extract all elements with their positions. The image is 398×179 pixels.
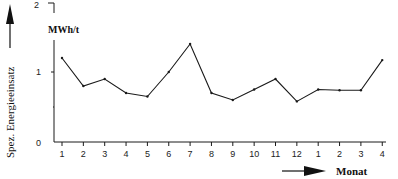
xtick-label: 12 [292, 149, 302, 159]
data-point [61, 57, 63, 59]
data-point [274, 78, 276, 80]
data-point [168, 71, 170, 73]
line-chart: Spez. Energieeinsatz MWh/t 2 1 0 1234567… [0, 0, 398, 179]
data-points [61, 43, 384, 103]
yaxis-unit: MWh/t [48, 24, 80, 35]
ytick-1: 1 [36, 67, 41, 77]
data-point [210, 92, 212, 94]
xtick-label: 4 [380, 149, 385, 159]
data-point [146, 95, 148, 97]
xtick-label: 9 [230, 149, 235, 159]
xtick-label: 6 [166, 149, 171, 159]
ytick-0: 0 [36, 138, 41, 148]
xtick-label: 3 [102, 149, 107, 159]
data-point [360, 89, 362, 91]
axes [48, 3, 386, 142]
xtick-label: 11 [271, 149, 280, 159]
data-point [125, 92, 127, 94]
xtick-label: 2 [81, 149, 86, 159]
data-point [338, 89, 340, 91]
xtick-label: 10 [249, 149, 259, 159]
data-point [253, 88, 255, 90]
xaxis-title: Monat [336, 165, 368, 177]
data-point [189, 43, 191, 45]
xtick-label: 5 [145, 149, 150, 159]
xtick-label: 2 [337, 149, 342, 159]
xtick-label: 1 [59, 149, 64, 159]
ytick-2: 2 [34, 0, 39, 10]
data-point [381, 59, 383, 61]
xaxis-tick-labels: 1234567891011121234 [59, 149, 384, 159]
xaxis-ticks [62, 142, 382, 146]
data-line [62, 44, 382, 101]
xtick-label: 8 [209, 149, 214, 159]
data-point [82, 85, 84, 87]
data-point [317, 88, 319, 90]
xtick-label: 3 [358, 149, 363, 159]
data-point [296, 100, 298, 102]
yaxis-title: Spez. Energieeinsatz [4, 66, 16, 158]
yaxis-arrow-icon [6, 4, 14, 48]
xaxis-arrow-icon [282, 166, 326, 176]
data-point [104, 78, 106, 80]
data-point [232, 99, 234, 101]
xtick-label: 4 [124, 149, 129, 159]
xtick-label: 7 [188, 149, 193, 159]
xtick-label: 1 [316, 149, 321, 159]
